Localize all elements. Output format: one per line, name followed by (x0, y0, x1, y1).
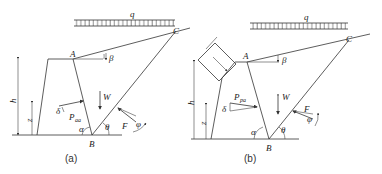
caption-a: (a) (65, 153, 77, 164)
beta-label: β (108, 53, 114, 63)
weight-label: W (282, 92, 291, 102)
alpha-label: α (79, 124, 84, 134)
point-A-label: A (69, 49, 76, 59)
earth-pressure-arrow (59, 101, 83, 106)
phi-label: φ (307, 114, 312, 124)
z-label: z (198, 121, 208, 126)
slip-plane (92, 31, 176, 135)
distributed-load-b: q (250, 12, 348, 29)
point-C-label: C (346, 34, 353, 44)
delta-label: δ (56, 106, 61, 116)
reaction-label: F (303, 104, 310, 114)
height-label: h (186, 100, 196, 105)
earth-pressure-label: P (68, 112, 75, 122)
distributed-load-a: q (74, 9, 175, 26)
point-B-label: B (266, 143, 272, 153)
delta-label: δ (222, 104, 227, 114)
anchor-block (198, 43, 236, 81)
figure-b: q β A B C h z δ P pa α (186, 12, 370, 164)
z-label: z (24, 118, 34, 123)
reaction-label: F (121, 121, 128, 131)
height-label: h (8, 98, 18, 103)
point-A-label: A (242, 51, 249, 61)
figure-a: q β A B C h z δ P aa α θ (8, 9, 190, 164)
earth-pressure-subscript: pa (239, 97, 246, 103)
phi-label: φ (136, 119, 141, 129)
earth-pressure-arrow (230, 103, 257, 107)
alpha-label: α (251, 127, 256, 137)
point-C-label: C (173, 26, 180, 36)
weight-label: W (103, 92, 112, 102)
theta-label: θ (281, 125, 286, 135)
beta-label: β (281, 55, 287, 65)
theta-label: θ (105, 122, 110, 132)
caption-b: (b) (244, 153, 256, 164)
retaining-wall (37, 59, 92, 135)
load-label-q: q (130, 9, 135, 19)
retaining-wall-diagram: q β A B C h z δ P aa α θ (0, 0, 382, 174)
earth-pressure-label: P (233, 92, 240, 102)
earth-pressure-subscript: aa (75, 117, 81, 123)
point-B-label: B (89, 139, 95, 149)
load-label-q: q (304, 12, 309, 22)
